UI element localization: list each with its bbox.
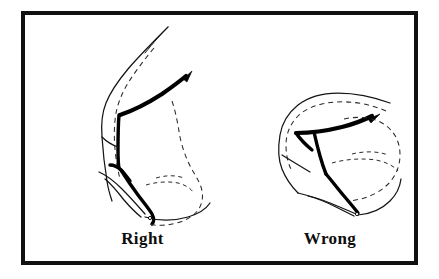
upper-sweep-line	[145, 27, 168, 53]
bottom-closure-curve-wrong	[358, 179, 401, 215]
outer-forehead-contour	[102, 27, 168, 201]
instrument-bold-stroke-wrong	[296, 116, 372, 133]
vertical-bold-shaft-wrong	[314, 132, 326, 174]
dashed-inner-arc-2	[156, 176, 184, 178]
dashed-reference-right-shape	[148, 101, 203, 225]
vertical-bold-shaft	[118, 115, 119, 168]
dashed-reference-contour-upper-wrong	[286, 102, 386, 171]
illustration-root: Right	[0, 0, 439, 279]
lower-bold-curve-wrong	[326, 174, 358, 213]
caption-wrong: Wrong	[240, 230, 420, 247]
bottom-point-marker-wrong	[355, 212, 358, 215]
mouth-detail-line-wrong	[282, 155, 310, 172]
right-profile-drawing	[50, 15, 235, 230]
dashed-inner-arc-wrong	[332, 159, 398, 171]
panel-wrong: Wrong	[240, 15, 420, 261]
wrong-profile-drawing	[240, 15, 420, 230]
dashed-inner-arc	[146, 182, 194, 194]
lip-junction-notch-wrong	[296, 133, 312, 150]
bottom-point-marker	[148, 216, 151, 219]
dashed-inner-arc-2-wrong	[352, 152, 388, 155]
instrument-bold-stroke	[120, 76, 186, 115]
outer-forehead-contour-wrong	[279, 93, 390, 193]
panel-right: Right	[50, 15, 235, 261]
lower-bold-curve	[121, 170, 154, 224]
figure-border-frame: Right	[21, 11, 418, 265]
mouth-detail-line	[102, 137, 118, 147]
caption-right: Right	[50, 230, 235, 247]
